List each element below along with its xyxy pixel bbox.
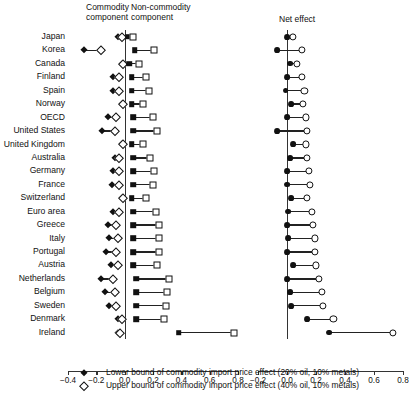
marker-net-upper	[289, 33, 296, 40]
marker-net-upper	[330, 316, 337, 323]
marker-commodity-upper	[111, 113, 120, 122]
data-row	[258, 245, 403, 258]
marker-noncommodity-lower	[130, 263, 136, 269]
marker-net-lower	[287, 61, 293, 67]
header-noncommodity-component: Non-commodity component	[131, 2, 191, 22]
marker-commodity-upper	[114, 167, 123, 176]
marker-net-lower	[288, 101, 294, 107]
marker-noncommodity-lower	[133, 276, 139, 282]
marker-commodity-upper	[113, 234, 122, 243]
marker-commodity-upper	[96, 45, 105, 54]
marker-net-upper	[304, 154, 311, 161]
marker-net-lower	[284, 249, 290, 255]
panel-commodity-noncommodity: −0.4−0.20.00.20.40.60.8	[68, 30, 238, 339]
panel-net-effect: −0.20.00.20.40.60.8	[258, 30, 403, 339]
marker-commodity-lower	[105, 235, 113, 243]
data-row	[258, 286, 403, 299]
data-row	[68, 30, 238, 43]
data-row	[258, 151, 403, 164]
marker-commodity-lower	[102, 248, 110, 256]
marker-net-lower	[304, 316, 310, 322]
category-label: Germany	[0, 164, 68, 177]
marker-net-upper	[307, 181, 314, 188]
connector-line	[179, 332, 234, 333]
data-row	[258, 191, 403, 204]
data-row	[258, 312, 403, 325]
marker-net-lower	[288, 195, 294, 201]
marker-noncommodity-upper	[154, 127, 161, 134]
marker-net-lower	[287, 155, 293, 161]
marker-noncommodity-lower	[133, 289, 139, 295]
marker-net-lower	[284, 115, 290, 121]
data-row	[68, 259, 238, 272]
marker-noncommodity-lower	[129, 142, 135, 148]
category-label: Finland	[0, 70, 68, 83]
data-row	[68, 245, 238, 258]
data-row	[258, 218, 403, 231]
data-row	[68, 218, 238, 231]
data-row	[68, 232, 238, 245]
marker-net-upper	[311, 248, 318, 255]
marker-noncommodity-upper	[165, 275, 172, 282]
data-row	[258, 299, 403, 312]
connector-line	[287, 278, 319, 279]
marker-commodity-lower	[97, 275, 105, 283]
marker-noncommodity-upper	[142, 74, 149, 81]
marker-commodity-lower	[98, 127, 106, 135]
category-label: Portugal	[0, 245, 68, 258]
marker-noncommodity-lower	[129, 195, 135, 201]
marker-net-upper	[305, 168, 312, 175]
marker-noncommodity-lower	[126, 61, 132, 67]
marker-noncommodity-upper	[151, 168, 158, 175]
marker-net-upper	[298, 47, 305, 54]
marker-net-lower	[286, 236, 292, 242]
marker-noncommodity-lower	[133, 303, 139, 309]
marker-commodity-upper	[119, 99, 128, 108]
data-row	[68, 165, 238, 178]
marker-noncommodity-lower	[129, 101, 135, 107]
marker-net-lower	[290, 262, 296, 268]
marker-noncommodity-lower	[132, 47, 138, 53]
marker-noncommodity-lower	[130, 249, 136, 255]
marker-noncommodity-upper	[135, 60, 142, 67]
connector-line	[277, 130, 307, 131]
marker-net-upper	[312, 262, 319, 269]
data-row	[68, 326, 238, 339]
data-row	[258, 70, 403, 83]
marker-noncommodity-lower	[130, 115, 136, 121]
category-label: Ireland	[0, 326, 68, 339]
marker-noncommodity-upper	[162, 302, 169, 309]
marker-noncommodity-lower	[129, 88, 135, 94]
category-label: Greece	[0, 218, 68, 231]
marker-net-upper	[318, 289, 325, 296]
data-row	[68, 205, 238, 218]
connector-line	[136, 292, 167, 293]
marker-net-lower	[274, 47, 280, 53]
marker-noncommodity-lower	[130, 222, 136, 228]
data-row	[68, 57, 238, 70]
marker-net-upper	[311, 235, 318, 242]
marker-commodity-lower	[104, 114, 112, 122]
marker-noncommodity-lower	[130, 128, 136, 134]
data-row	[258, 30, 403, 43]
category-label: Spain	[0, 84, 68, 97]
category-label: United Kingdom	[0, 138, 68, 151]
header-net-effect: Net effect	[279, 14, 315, 24]
marker-net-lower	[284, 168, 290, 174]
data-row	[258, 111, 403, 124]
marker-commodity-lower	[104, 221, 112, 229]
marker-noncommodity-lower	[130, 209, 136, 215]
connector-line	[329, 332, 393, 333]
marker-noncommodity-upper	[145, 87, 152, 94]
marker-net-upper	[302, 114, 309, 121]
marker-commodity-upper	[111, 247, 120, 256]
marker-noncommodity-upper	[154, 262, 161, 269]
marker-noncommodity-upper	[161, 316, 168, 323]
data-row	[68, 178, 238, 191]
data-row	[68, 124, 238, 137]
category-label: Belgium	[0, 285, 68, 298]
category-label: Italy	[0, 232, 68, 245]
category-label: Denmark	[0, 312, 68, 325]
legend-label: Upper bound of commodity import price ef…	[106, 379, 359, 392]
data-row	[258, 178, 403, 191]
